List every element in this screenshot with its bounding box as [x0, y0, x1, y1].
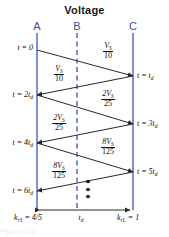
wave-segment-2 [37, 76, 133, 95]
time-label-t4td: t = 4td [12, 139, 33, 147]
wave-amplitude-5: 8VS 125 [101, 138, 115, 157]
time-label-t6td: t = 6td [12, 187, 33, 195]
terminal-label-c: C [129, 20, 137, 32]
source-reflection-coefficient-label: krS = 4/5 [14, 214, 42, 222]
time-label-ttd: t = td [137, 72, 154, 80]
caption-partial: Figure 1.22 [0, 228, 169, 237]
terminal-label-a: A [33, 20, 40, 32]
time-label-t0: t = 0 [17, 44, 33, 52]
time-label-t5td: t = 5td [137, 168, 158, 176]
delay-time-label: td [79, 214, 84, 222]
continuation-ellipsis [86, 180, 90, 198]
time-label-t2td: t = 2td [12, 91, 33, 99]
wave-amplitude-3: 2VS 25 [101, 90, 115, 109]
bounce-diagram-figure: Voltage A B C t [0, 0, 169, 237]
wave-amplitude-6: 8VS 125 [52, 162, 66, 181]
load-reflection-coefficient-label: krL = 1 [117, 214, 139, 222]
terminal-label-b: B [73, 20, 80, 32]
time-label-t3td: t = 3td [137, 120, 158, 128]
wave-amplitude-4: 2VS 25 [52, 114, 66, 133]
wave-segment-1 [37, 50, 133, 76]
wave-amplitude-1: VS 10 [103, 42, 113, 61]
wave-amplitude-2: VS 10 [54, 65, 64, 84]
